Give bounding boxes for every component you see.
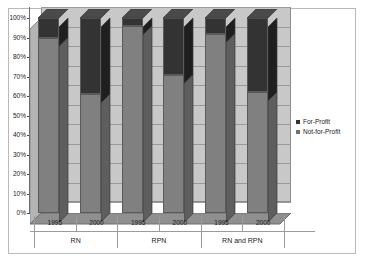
y-axis-tick-label: 70% bbox=[13, 74, 26, 81]
bar-segment-fp[interactable] bbox=[163, 18, 184, 75]
x-axis-separator bbox=[76, 216, 77, 231]
bar-face bbox=[38, 38, 59, 214]
x-axis-year-label: 1995 bbox=[201, 219, 243, 227]
bar-top bbox=[38, 9, 68, 18]
bar-side bbox=[268, 92, 277, 213]
x-axis-separator bbox=[159, 216, 160, 231]
legend-swatch-icon bbox=[296, 120, 300, 124]
bar-face bbox=[38, 18, 59, 38]
legend-item[interactable]: For-Profit bbox=[296, 118, 358, 125]
bar-side bbox=[59, 18, 68, 38]
plot-area bbox=[30, 18, 280, 213]
bar-face bbox=[122, 18, 143, 26]
legend-label: Not-for-Profit bbox=[303, 128, 340, 135]
bar-side bbox=[226, 18, 235, 34]
bar-segment-fp[interactable] bbox=[80, 18, 101, 94]
bar-side bbox=[184, 18, 193, 75]
legend-item[interactable]: Not-for-Profit bbox=[296, 128, 358, 135]
x-axis-year-label: 2000 bbox=[159, 219, 201, 227]
bar-segment-nfp[interactable] bbox=[38, 38, 59, 214]
x-axis-group-label: RN bbox=[34, 236, 118, 245]
bar-face bbox=[205, 18, 226, 34]
x-axis-year-label: 1995 bbox=[117, 219, 159, 227]
x-axis-rule bbox=[30, 231, 315, 232]
bar-side bbox=[143, 26, 152, 213]
x-axis-year-label: 2000 bbox=[76, 219, 118, 227]
bar-face bbox=[80, 18, 101, 94]
legend-swatch-icon bbox=[296, 130, 300, 134]
bar-side bbox=[101, 94, 110, 213]
chart-container: 100%90%80%70%60%50%40%30%20%10%0% 199520… bbox=[0, 0, 365, 262]
bar-top bbox=[247, 9, 277, 18]
bar-segment-fp[interactable] bbox=[205, 18, 226, 34]
bar-segment-fp[interactable] bbox=[38, 18, 59, 38]
bar-side bbox=[59, 38, 68, 214]
bar-side bbox=[143, 18, 152, 26]
bar-segment-fp[interactable] bbox=[247, 18, 268, 92]
bar-top bbox=[80, 9, 110, 18]
bar-segment-nfp[interactable] bbox=[80, 94, 101, 213]
bar-face bbox=[163, 18, 184, 75]
bar-segment-nfp[interactable] bbox=[247, 92, 268, 213]
bar-segment-nfp[interactable] bbox=[122, 26, 143, 213]
x-axis-separator bbox=[242, 216, 243, 231]
legend-label: For-Profit bbox=[303, 118, 330, 125]
gridline bbox=[41, 7, 291, 8]
x-axis: 199520001995200019952000RNRPNRN and RPN bbox=[30, 216, 315, 256]
y-axis-tick-label: 30% bbox=[13, 152, 26, 159]
y-axis-tick-label: 80% bbox=[13, 54, 26, 61]
bar-side bbox=[226, 34, 235, 213]
y-axis-tick-label: 60% bbox=[13, 93, 26, 100]
bar-top bbox=[122, 9, 152, 18]
bar-segment-nfp[interactable] bbox=[163, 75, 184, 213]
bar-side bbox=[268, 18, 277, 92]
bar-side bbox=[101, 18, 110, 94]
bar-side bbox=[184, 75, 193, 213]
chart-legend: For-ProfitNot-for-Profit bbox=[296, 118, 358, 138]
y-axis-tick-label: 0% bbox=[17, 210, 26, 217]
bar-series-group bbox=[30, 18, 280, 213]
x-axis-group-label: RPN bbox=[117, 236, 201, 245]
bar-segment-nfp[interactable] bbox=[205, 34, 226, 213]
x-axis-year-label: 2000 bbox=[242, 219, 284, 227]
x-axis-group-label: RN and RPN bbox=[200, 236, 284, 245]
y-axis-tick-label: 10% bbox=[13, 191, 26, 198]
y-axis-tick-label: 40% bbox=[13, 132, 26, 139]
y-axis-tick-label: 20% bbox=[13, 171, 26, 178]
bar-face bbox=[247, 18, 268, 92]
bar-face bbox=[122, 26, 143, 213]
bar-segment-fp[interactable] bbox=[122, 18, 143, 26]
bar-face bbox=[163, 75, 184, 213]
y-axis-tick-label: 100% bbox=[9, 15, 26, 22]
y-axis-tick-label: 90% bbox=[13, 35, 26, 42]
y-axis: 100%90%80%70%60%50%40%30%20%10%0% bbox=[0, 0, 30, 214]
bar-face bbox=[205, 34, 226, 213]
x-axis-year-label: 1995 bbox=[34, 219, 76, 227]
bar-top bbox=[163, 9, 193, 18]
bar-top bbox=[205, 9, 235, 18]
bar-face bbox=[247, 92, 268, 213]
y-axis-tick-label: 50% bbox=[13, 113, 26, 120]
bar-face bbox=[80, 94, 101, 213]
